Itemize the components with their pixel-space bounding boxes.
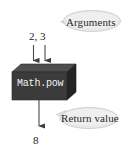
method-box-label: Math.pow	[17, 79, 63, 89]
input-arguments-value: 2, 3	[29, 31, 46, 42]
callout-return-value-label: Return value	[61, 113, 119, 124]
return-value-number: 8	[33, 135, 39, 146]
method-call-diagram: Arguments Return value 2, 3 Math.pow 8	[0, 0, 126, 149]
callout-arguments-label: Arguments	[66, 17, 116, 28]
